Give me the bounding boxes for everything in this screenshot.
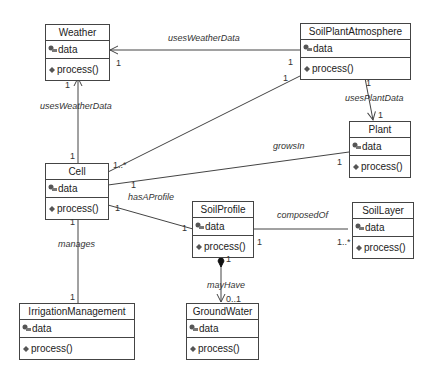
attribute-key-icon — [48, 45, 57, 53]
operation-process: process() — [57, 64, 99, 75]
label-cell-weather: usesWeatherData — [40, 101, 112, 111]
operation-diamond-icon — [196, 244, 202, 250]
operation-diamond-icon — [23, 346, 29, 352]
edge-cell-soilprofile — [108, 205, 193, 229]
attribute-data: data — [365, 222, 384, 233]
label-soilprofile-soillayer: composedOf — [277, 210, 328, 220]
attribute-key-icon — [195, 222, 204, 230]
mult-groundwater-soilprofile: 0..1 — [226, 294, 241, 304]
operation-diamond-icon — [304, 66, 310, 72]
attribute-key-icon — [189, 324, 198, 332]
operation-process: process() — [361, 161, 403, 172]
class-name: SoilPlantAtmosphere — [301, 24, 410, 40]
operation-diamond-icon — [49, 206, 55, 212]
class-name: GroundWater — [187, 304, 258, 320]
operation-process: process() — [204, 241, 246, 252]
label-cell-irrigation: manages — [58, 239, 95, 249]
label-spa-plant: usesPlantData — [345, 93, 404, 103]
mult-cell-irrigation: 1 — [70, 217, 75, 227]
mult-soilprofile-groundwater: 1 — [226, 254, 231, 264]
class-name: IrrigationManagement — [20, 304, 134, 320]
class-cell[interactable]: Cell data process() — [45, 163, 109, 220]
attribute-key-icon — [303, 44, 312, 52]
label-cell-soilprofile: hasAProfile — [128, 192, 174, 202]
attribute-data: data — [313, 43, 332, 54]
class-name: SoilProfile — [193, 202, 253, 218]
label-cell-plant: growsIn — [273, 141, 305, 151]
mult-plant-cell: 1 — [337, 157, 342, 167]
attribute-key-icon — [355, 223, 364, 231]
attribute-data: data — [32, 323, 51, 334]
label-soilprofile-groundwater: mayHave — [207, 280, 245, 290]
attribute-data: data — [199, 323, 218, 334]
operation-process: process() — [57, 203, 99, 214]
edge-cell-plant — [108, 152, 349, 185]
operation-diamond-icon — [49, 67, 55, 73]
attribute-data: data — [362, 141, 381, 152]
operation-process: process() — [31, 343, 73, 354]
mult-soillayer-soilprofile: 1..* — [337, 237, 351, 247]
mult-weather-cell: 1 — [65, 80, 70, 90]
class-name: SoilLayer — [353, 203, 413, 219]
class-soil-profile[interactable]: SoilProfile data process() — [192, 201, 254, 258]
class-soil-plant-atmosphere[interactable]: SoilPlantAtmosphere data process() — [300, 23, 411, 80]
mult-cell-soilprofile: 1 — [115, 203, 120, 213]
attribute-data: data — [58, 44, 77, 55]
mult-cell-spa: 1..* — [113, 160, 127, 170]
mult-spa-plant-src: 1 — [366, 78, 371, 88]
class-ground-water[interactable]: GroundWater data process() — [186, 303, 259, 360]
class-soil-layer[interactable]: SoilLayer data process() — [352, 202, 414, 259]
operation-diamond-icon — [190, 346, 196, 352]
operation-diamond-icon — [356, 245, 362, 251]
attribute-key-icon — [22, 324, 31, 332]
attribute-data: data — [58, 183, 77, 194]
operation-process: process() — [312, 63, 354, 74]
operation-diamond-icon — [353, 164, 359, 170]
mult-spa-weather: 1 — [288, 57, 293, 67]
mult-spa-plant-tgt: 1 — [378, 110, 383, 120]
operation-process: process() — [198, 343, 240, 354]
attribute-key-icon — [48, 184, 57, 192]
mult-irrigation-cell: 1 — [70, 292, 75, 302]
class-name: Plant — [350, 122, 410, 138]
class-weather[interactable]: Weather data process() — [45, 24, 110, 81]
mult-cell-weather: 1 — [70, 151, 75, 161]
class-name: Cell — [46, 164, 108, 180]
mult-cell-plant: 1 — [131, 180, 136, 190]
mult-soilprofile-cell: 1 — [182, 223, 187, 233]
mult-soilprofile-soillayer: 1 — [257, 237, 262, 247]
attribute-data: data — [205, 221, 224, 232]
attribute-key-icon — [352, 142, 361, 150]
operation-process: process() — [364, 242, 406, 253]
class-irrigation-management[interactable]: IrrigationManagement data process() — [19, 303, 135, 360]
mult-spa-cell: 1 — [283, 73, 288, 83]
edge-cell-spa — [108, 76, 300, 172]
label-spa-weather: usesWeatherData — [168, 33, 240, 43]
class-name: Weather — [46, 25, 109, 41]
class-plant[interactable]: Plant data process() — [349, 121, 411, 178]
mult-weather-spa: 1 — [116, 58, 121, 68]
